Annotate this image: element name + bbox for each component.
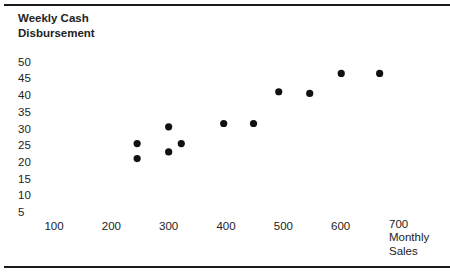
data-point [338,70,345,77]
x-tick-label: 400 [216,220,235,232]
data-points [134,70,384,162]
y-tick-label: 30 [18,123,31,135]
y-tick-labels: 5045403530252015105 [18,56,31,218]
data-point [250,120,257,127]
y-tick-label: 5 [18,206,24,218]
y-tick-label: 20 [18,156,31,168]
x-tick-labels: 100200300400500600700 [44,218,408,232]
y-tick-label: 10 [18,189,31,201]
data-point [220,120,227,127]
x-tick-label: 500 [274,220,293,232]
x-axis-label-line-2: Sales [389,244,429,258]
y-tick-label: 25 [18,139,31,151]
data-point [165,148,172,155]
y-tick-label: 35 [18,106,31,118]
data-point [178,140,185,147]
bottom-rule [4,266,450,268]
x-tick-label: 700 [389,218,408,230]
x-axis-label: Monthly Sales [389,230,429,258]
y-tick-label: 45 [18,72,31,84]
data-point [134,155,141,162]
x-tick-label: 600 [331,220,350,232]
scatter-plot: 5045403530252015105 10020030040050060070… [0,0,450,273]
y-tick-label: 40 [18,89,31,101]
data-point [275,88,282,95]
x-tick-label: 100 [44,220,63,232]
y-tick-label: 15 [18,173,31,185]
x-tick-label: 300 [159,220,178,232]
y-tick-label: 50 [18,56,31,68]
x-axis-label-line-1: Monthly [389,230,429,244]
data-point [306,90,313,97]
data-point [165,123,172,130]
x-tick-label: 200 [102,220,121,232]
data-point [376,70,383,77]
data-point [134,140,141,147]
